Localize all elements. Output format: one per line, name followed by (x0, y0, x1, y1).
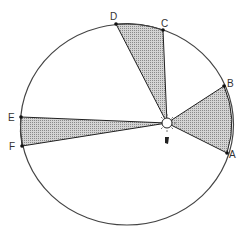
label-d: D (110, 11, 117, 22)
sector-ef (20, 117, 167, 146)
label-e: E (8, 112, 15, 123)
focus-marker-icon (165, 137, 169, 144)
label-f: F (9, 141, 15, 152)
kepler-diagram: A B C D E F (0, 0, 248, 236)
label-a: A (229, 149, 236, 160)
sector-ab (167, 86, 232, 153)
label-b: B (227, 78, 234, 89)
sector-cd (116, 24, 167, 123)
label-c: C (161, 18, 168, 29)
